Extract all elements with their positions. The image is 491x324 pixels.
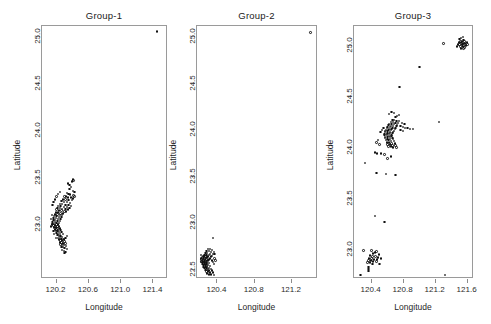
data-point xyxy=(362,249,364,251)
scatter-figure-panel-group: Group-1120.2120.6121.0121.423.023.524.02… xyxy=(0,0,491,324)
data-point xyxy=(367,270,369,272)
panel-title: Group-3 xyxy=(353,10,473,21)
data-point xyxy=(392,146,394,148)
x-axis-tick-label: 120.4 xyxy=(358,285,384,294)
x-axis-tick xyxy=(403,279,404,283)
data-point xyxy=(380,152,382,154)
data-point xyxy=(403,123,405,125)
data-point xyxy=(383,221,385,223)
y-axis-tick-label: 23.5 xyxy=(345,185,354,211)
data-point xyxy=(364,162,366,164)
data-point xyxy=(466,43,468,45)
x-axis-tick-label: 120.8 xyxy=(390,285,416,294)
x-axis-title: Longitude xyxy=(353,302,473,312)
data-point xyxy=(383,153,385,155)
data-point xyxy=(444,274,446,276)
data-point xyxy=(359,274,361,276)
data-point xyxy=(371,263,373,265)
scatter-panel-3: Group-3120.4120.8121.2121.623.023.524.02… xyxy=(0,0,491,324)
data-point xyxy=(395,146,397,148)
data-point xyxy=(376,152,378,154)
y-axis-tick-label: 24.5 xyxy=(345,83,354,109)
data-point xyxy=(412,128,414,130)
data-point xyxy=(374,215,376,217)
data-point xyxy=(375,250,377,252)
data-point xyxy=(380,257,382,259)
y-axis-tick-label: 23.0 xyxy=(345,236,354,262)
x-axis-tick xyxy=(435,279,436,283)
data-point xyxy=(457,43,459,45)
data-point xyxy=(398,86,400,88)
data-point xyxy=(378,263,380,265)
x-axis-tick xyxy=(467,279,468,283)
data-point xyxy=(378,143,380,145)
data-point xyxy=(409,128,411,130)
data-point xyxy=(462,47,464,49)
data-point xyxy=(394,116,396,118)
data-point xyxy=(390,111,392,113)
y-axis-tick-label: 24.0 xyxy=(345,134,354,160)
data-point xyxy=(442,42,444,44)
data-point xyxy=(394,174,396,176)
data-point xyxy=(370,249,372,251)
x-axis-tick-label: 121.2 xyxy=(422,285,448,294)
data-point xyxy=(418,66,420,68)
data-point xyxy=(379,131,381,133)
x-axis-tick-label: 121.6 xyxy=(454,285,480,294)
data-point xyxy=(402,130,404,132)
y-axis-tick-label: 25.0 xyxy=(345,32,354,58)
x-axis-tick xyxy=(371,279,372,283)
data-point xyxy=(375,172,377,174)
data-point xyxy=(398,114,400,116)
data-point xyxy=(375,141,377,143)
plot-area xyxy=(353,25,473,278)
data-point xyxy=(393,112,395,114)
y-axis-title: Latitude xyxy=(325,125,335,185)
data-point xyxy=(386,157,388,159)
data-point xyxy=(378,253,380,255)
data-point xyxy=(385,173,387,175)
data-point xyxy=(438,121,440,123)
data-point xyxy=(375,260,377,262)
data-point xyxy=(390,155,392,157)
